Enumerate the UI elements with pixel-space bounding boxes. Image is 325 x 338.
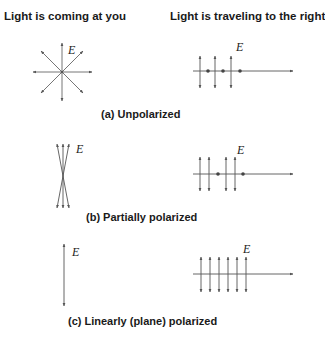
field-label-b-right: E [236, 143, 245, 157]
field-label-b-left: E [75, 142, 84, 156]
field-label-a-right: E [235, 40, 244, 54]
field-label-c-right: E [242, 242, 251, 256]
field-label-c-left: E [71, 245, 80, 259]
unpolarized-head-on-view [33, 43, 92, 101]
field-label-a-left: E [67, 43, 76, 57]
partially-polarized-head-on-view [57, 144, 69, 208]
unpolarized-side-view [193, 56, 293, 88]
partially-polarized-side-view [193, 157, 293, 191]
linearly-polarized-side-view [193, 257, 293, 292]
